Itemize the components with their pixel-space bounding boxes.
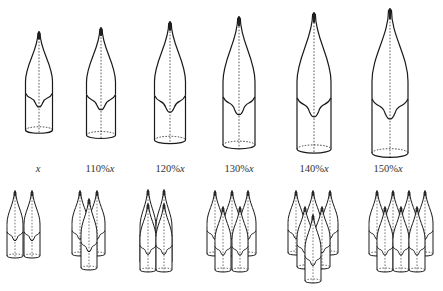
diagram-svg [0,0,443,291]
top-shape-5 [297,13,331,153]
cluster-2 [7,191,40,258]
top-shape-3 [155,22,186,144]
cluster-4 [140,190,172,272]
scale-label-150: 150%x [373,163,402,174]
top-shape-6 [372,9,408,157]
cluster-5 [207,191,256,272]
cluster-2-shape-2 [24,191,40,258]
top-shape-4 [223,17,255,149]
cluster-7 [369,191,433,272]
scale-label-x: x [36,163,41,174]
scale-label-110: 110%x [86,163,115,174]
bottom-row-clusters [7,190,433,283]
scale-label-130: 130%x [224,163,253,174]
cluster-6 [288,191,338,283]
scale-label-120: 120%x [155,163,184,174]
cluster-3 [72,191,105,270]
top-row-shapes [26,9,409,157]
top-shape-2 [87,28,116,138]
cluster-2-shape-1 [7,191,23,258]
top-shape-1 [26,32,53,133]
scale-label-140: 140%x [299,163,328,174]
figure-canvas: x 110%x 120%x 130%x 140%x 150%x [0,0,443,291]
